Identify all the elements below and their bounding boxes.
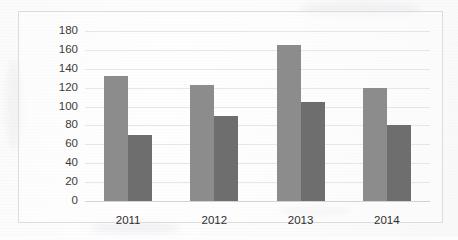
scanned-page-background: 180160140120100806040200 201120122013201… [0, 0, 458, 237]
bar-2011-series-1 [104, 76, 128, 201]
bar-group: 2014 [344, 31, 430, 201]
y-axis-tick-label: 20 [65, 176, 78, 188]
y-axis-tick-label: 100 [59, 101, 78, 113]
x-axis-tick-label: 2013 [288, 215, 314, 227]
y-axis-tick-label: 40 [65, 157, 78, 169]
y-axis-tick-label: 60 [65, 139, 78, 151]
bar-group: 2013 [258, 31, 344, 201]
bars-layer: 2011201220132014 [85, 31, 430, 201]
y-axis-tick-label: 140 [59, 63, 78, 75]
chart-frame: 180160140120100806040200 201120122013201… [18, 11, 443, 223]
bar-group: 2012 [171, 31, 257, 201]
x-axis-tick-label: 2011 [116, 215, 141, 227]
bar-2012-series-1 [190, 85, 214, 201]
gridline [85, 201, 430, 202]
bar-2011-series-2 [128, 135, 152, 201]
y-axis-tick-label: 80 [65, 120, 78, 132]
bar-group: 2011 [85, 31, 171, 201]
x-axis-tick-label: 2014 [374, 215, 400, 227]
bar-2012-series-2 [214, 116, 238, 201]
y-axis-tick-label: 180 [59, 25, 78, 37]
bar-2014-series-1 [363, 88, 387, 201]
bar-2013-series-2 [301, 102, 325, 201]
plot-area: 180160140120100806040200 201120122013201… [85, 31, 430, 201]
bar-2014-series-2 [387, 125, 411, 201]
y-axis-tick-label: 0 [72, 195, 78, 207]
y-axis-tick-label: 160 [59, 44, 78, 56]
bar-2013-series-1 [277, 45, 301, 201]
x-axis-tick-label: 2012 [202, 215, 228, 227]
y-axis-tick-label: 120 [59, 82, 78, 94]
